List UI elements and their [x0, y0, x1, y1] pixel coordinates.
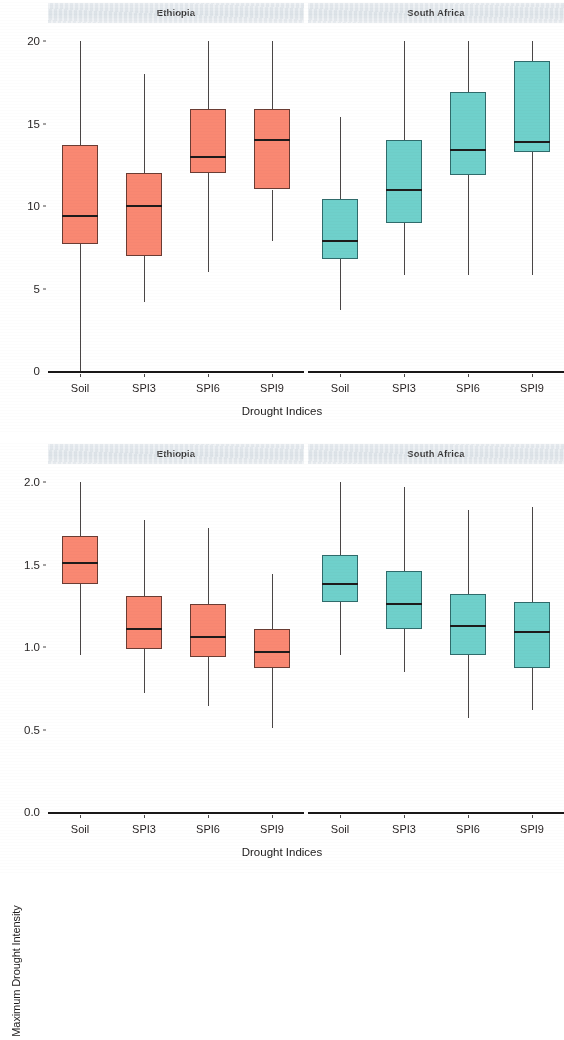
- x-axis-line-south-africa-duration: [308, 371, 564, 373]
- boxplot-median-line: [190, 156, 226, 158]
- panel-strip-south-africa-duration: South Africa: [308, 3, 564, 23]
- x-tick-mark: [144, 815, 145, 818]
- boxplot-whisker-lower: [272, 190, 273, 241]
- boxplot-median-line: [514, 631, 550, 633]
- boxplot-box: [254, 109, 290, 190]
- boxplot-whisker-lower: [532, 152, 533, 276]
- x-tick-mark: [340, 815, 341, 818]
- boxplot-box: [450, 92, 486, 175]
- x-tick-label-spi3: SPI3: [392, 382, 416, 394]
- boxplot-box: [254, 629, 290, 669]
- boxplot-median-line: [322, 240, 358, 242]
- y-tick-label: 0: [0, 365, 40, 377]
- boxplot-whisker-upper: [208, 41, 209, 109]
- chart-drought-intensity: Maximum Drought Intensity 0.00.51.01.52.…: [0, 441, 564, 873]
- boxplot-whisker-upper: [340, 482, 341, 555]
- y-tick-label: 1.0: [0, 641, 40, 653]
- y-axis-title-intensity: Maximum Drought Intensity: [10, 806, 28, 1040]
- x-tick-label-soil: Soil: [331, 823, 349, 835]
- x-tick-label-spi6: SPI6: [456, 382, 480, 394]
- boxplot-whisker-upper: [468, 510, 469, 594]
- y-tick-label: 5: [0, 283, 40, 295]
- x-tick-label-spi9: SPI9: [260, 382, 284, 394]
- boxplot-box: [126, 596, 162, 649]
- boxplot-whisker-lower: [208, 657, 209, 707]
- boxplot-whisker-upper: [340, 117, 341, 200]
- boxplot-median-line: [126, 628, 162, 630]
- panel-strip-label: Ethiopia: [48, 444, 304, 464]
- y-tick-mark: [43, 482, 46, 483]
- boxplot-median-line: [450, 625, 486, 627]
- x-axis-line-ethiopia-intensity: [48, 812, 304, 814]
- x-tick-mark: [468, 815, 469, 818]
- boxplot-whisker-upper: [532, 507, 533, 603]
- boxplot-median-line: [386, 189, 422, 191]
- boxplot-median-line: [386, 603, 422, 605]
- x-tick-mark: [532, 815, 533, 818]
- x-axis-line-south-africa-intensity: [308, 812, 564, 814]
- boxplot-box: [322, 199, 358, 258]
- boxplot-whisker-upper: [208, 528, 209, 604]
- y-tick-mark: [43, 41, 46, 42]
- boxplot-median-line: [514, 141, 550, 143]
- boxplot-whisker-lower: [144, 256, 145, 302]
- x-tick-label-spi9: SPI9: [520, 823, 544, 835]
- y-tick-label: 20: [0, 35, 40, 47]
- x-tick-label-spi3: SPI3: [392, 823, 416, 835]
- boxplot-median-line: [62, 562, 98, 564]
- x-tick-label-spi9: SPI9: [260, 823, 284, 835]
- y-tick-label: 1.5: [0, 559, 40, 571]
- y-tick-label: 15: [0, 118, 40, 130]
- boxplot-box: [322, 555, 358, 603]
- x-axis-title-intensity: Drought Indices: [0, 846, 564, 858]
- x-tick-mark: [340, 374, 341, 377]
- boxplot-box: [190, 109, 226, 173]
- boxplot-whisker-lower: [208, 173, 209, 272]
- boxplot-median-line: [254, 139, 290, 141]
- x-tick-mark: [404, 374, 405, 377]
- x-tick-mark: [80, 815, 81, 818]
- y-tick-label: 0.5: [0, 724, 40, 736]
- boxplot-box: [62, 536, 98, 584]
- boxplot-whisker-lower: [532, 668, 533, 709]
- boxplot-box: [126, 173, 162, 256]
- x-tick-label-soil: Soil: [71, 823, 89, 835]
- y-tick-mark: [43, 647, 46, 648]
- boxplot-whisker-upper: [532, 41, 533, 61]
- y-tick-mark: [43, 564, 46, 565]
- chart-drought-duration: Maximum Drought Duration (month) 0510152…: [0, 0, 564, 432]
- boxplot-whisker-upper: [80, 41, 81, 145]
- boxplot-median-line: [450, 149, 486, 151]
- boxplot-whisker-upper: [468, 41, 469, 92]
- x-tick-label-soil: Soil: [71, 382, 89, 394]
- boxplot-median-line: [126, 205, 162, 207]
- x-tick-label-spi9: SPI9: [520, 382, 544, 394]
- y-tick-label: 10: [0, 200, 40, 212]
- boxplot-median-line: [62, 215, 98, 217]
- plot-panel-ethiopia-intensity: [48, 469, 304, 814]
- x-axis-title-duration: Drought Indices: [0, 405, 564, 417]
- boxplot-box: [386, 571, 422, 629]
- boxplot-box: [62, 145, 98, 244]
- x-axis-line-ethiopia-duration: [48, 371, 304, 373]
- x-tick-label-spi3: SPI3: [132, 823, 156, 835]
- x-tick-mark: [208, 815, 209, 818]
- x-tick-label-spi6: SPI6: [196, 382, 220, 394]
- x-tick-label-spi3: SPI3: [132, 382, 156, 394]
- plot-panel-south-africa-intensity: [308, 469, 564, 814]
- boxplot-whisker-lower: [404, 629, 405, 672]
- x-tick-mark: [532, 374, 533, 377]
- panel-strip-ethiopia-intensity: Ethiopia: [48, 444, 304, 464]
- y-tick-mark: [43, 206, 46, 207]
- panel-strip-label: South Africa: [308, 444, 564, 464]
- boxplot-median-line: [190, 636, 226, 638]
- x-tick-label-spi6: SPI6: [456, 823, 480, 835]
- panel-strip-label: Ethiopia: [48, 3, 304, 23]
- boxplot-whisker-upper: [80, 482, 81, 536]
- boxplot-box: [514, 61, 550, 152]
- boxplot-whisker-upper: [144, 520, 145, 596]
- x-tick-mark: [80, 374, 81, 377]
- boxplot-whisker-upper: [144, 74, 145, 173]
- y-tick-mark: [43, 123, 46, 124]
- x-tick-mark: [468, 374, 469, 377]
